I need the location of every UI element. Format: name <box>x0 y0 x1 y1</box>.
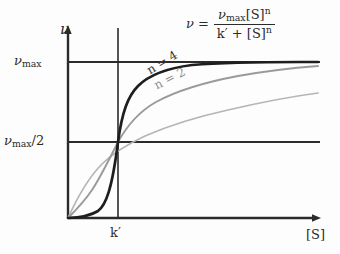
numerator-subscript: max <box>226 12 246 23</box>
equation-lhs: ν <box>186 17 194 30</box>
y-axis-title: ν <box>60 22 69 37</box>
vmax-nu-glyph: ν <box>14 53 22 68</box>
equation-denominator: k′ + [S]n <box>214 25 275 40</box>
numerator-nu-glyph: ν <box>218 7 226 22</box>
equation-numerator: νmax[S]n <box>215 7 274 24</box>
hill-equation-figure: ν [S] νmax νmax/2 k′ ν = νmax[S]n k′ + [… <box>0 0 340 254</box>
equation-fraction: νmax[S]n k′ + [S]n <box>214 7 275 40</box>
denominator-exponent: n <box>266 25 272 35</box>
y-tick-label-vmax-half: νmax/2 <box>4 134 44 149</box>
vmax-half-suffix: /2 <box>32 133 45 148</box>
hill-equation: ν = νmax[S]n k′ + [S]n <box>186 7 275 40</box>
x-tick-label-kprime: k′ <box>110 226 121 239</box>
plot-canvas <box>0 0 340 254</box>
equation-equals: = <box>198 17 209 30</box>
vmax-half-nu-glyph: ν <box>4 133 12 148</box>
x-axis-title: [S] <box>306 228 325 241</box>
y-tick-label-vmax: νmax <box>14 54 42 69</box>
x-axis-arrow-icon <box>312 214 321 221</box>
denominator-kprime: k′ <box>217 26 228 41</box>
numerator-substrate: [S] <box>246 7 265 22</box>
vmax-subscript: max <box>22 58 42 69</box>
vmax-half-subscript: max <box>12 138 32 149</box>
denominator-substrate: [S] <box>247 26 266 41</box>
denominator-plus: + <box>232 26 243 41</box>
curve-n4 <box>68 62 318 218</box>
numerator-exponent: n <box>265 6 271 16</box>
